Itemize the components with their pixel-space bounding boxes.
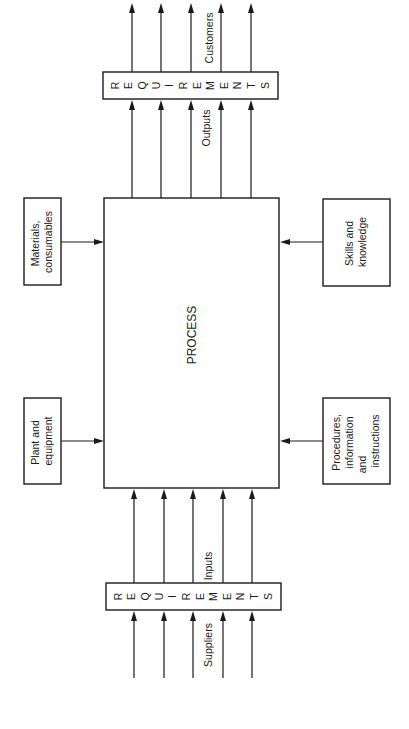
- requirements-letter: R: [180, 592, 192, 600]
- requirements-letter: E: [221, 593, 233, 600]
- supplier-arrows: [131, 611, 255, 678]
- requirements-letter: I: [166, 595, 178, 598]
- suppliers-label: Suppliers: [202, 623, 214, 667]
- requirements-letter: E: [218, 82, 230, 89]
- arrowhead-icon: [131, 489, 137, 499]
- customers-label: Customers: [203, 13, 215, 64]
- requirements-letter: E: [191, 82, 203, 89]
- requirements-letter: E: [122, 82, 134, 89]
- arrowhead-icon: [190, 489, 196, 499]
- arrowhead-icon: [220, 611, 226, 621]
- arrowhead-icon: [131, 611, 137, 621]
- process-model-diagram: Customers REQUIREMENTS Outputs PROCESS M…: [0, 0, 409, 729]
- requirements-letter: Q: [136, 81, 148, 89]
- requirements-letter: T: [248, 593, 260, 600]
- inputs-label: Inputs: [202, 552, 214, 581]
- arrowhead-icon: [280, 239, 290, 245]
- requirements-letter: M: [207, 592, 219, 601]
- arrowhead-icon: [94, 438, 104, 444]
- arrowhead-icon: [218, 100, 224, 110]
- input-arrows: [131, 489, 255, 583]
- plant-label: Plant and equipment: [29, 416, 54, 465]
- requirements-letter: S: [259, 82, 271, 89]
- arrowhead-icon: [129, 3, 135, 13]
- arrowhead-icon: [249, 489, 255, 499]
- requirements-letter: R: [177, 81, 189, 89]
- arrowhead-icon: [161, 489, 167, 499]
- requirements-letter: M: [204, 81, 216, 90]
- requirements-top-letters: REQUIREMENTS: [109, 81, 271, 90]
- arrowhead-icon: [129, 100, 135, 110]
- requirements-letter: T: [245, 82, 257, 89]
- output-arrows: [129, 100, 254, 198]
- requirements-letter: U: [150, 82, 162, 90]
- arrowhead-icon: [190, 611, 196, 621]
- requirements-letter: N: [231, 82, 243, 90]
- arrowhead-icon: [188, 3, 194, 13]
- requirements-letter: R: [109, 81, 121, 89]
- arrowhead-icon: [158, 3, 164, 13]
- arrowhead-icon: [249, 611, 255, 621]
- requirements-letter: Q: [139, 592, 151, 600]
- requirements-letter: N: [234, 593, 246, 601]
- materials-label: Materials, consumables: [29, 211, 54, 273]
- arrowhead-icon: [248, 3, 254, 13]
- arrowhead-icon: [188, 100, 194, 110]
- arrowhead-icon: [94, 239, 104, 245]
- customer-arrows: [129, 3, 254, 72]
- requirements-letter: R: [112, 592, 124, 600]
- requirements-bottom-letters: REQUIREMENTS: [112, 592, 274, 601]
- arrowhead-icon: [218, 3, 224, 13]
- arrowhead-icon: [248, 100, 254, 110]
- process-label: PROCESS: [185, 306, 199, 365]
- outputs-label: Outputs: [200, 110, 212, 147]
- arrowhead-icon: [280, 438, 290, 444]
- requirements-letter: E: [125, 593, 137, 600]
- arrowhead-icon: [220, 489, 226, 499]
- requirements-letter: S: [262, 593, 274, 600]
- requirements-letter: U: [153, 593, 165, 601]
- arrowhead-icon: [161, 611, 167, 621]
- skills-label: Skills and knowledge: [343, 217, 368, 267]
- requirements-letter: I: [163, 84, 175, 87]
- requirements-letter: E: [194, 593, 206, 600]
- arrowhead-icon: [158, 100, 164, 110]
